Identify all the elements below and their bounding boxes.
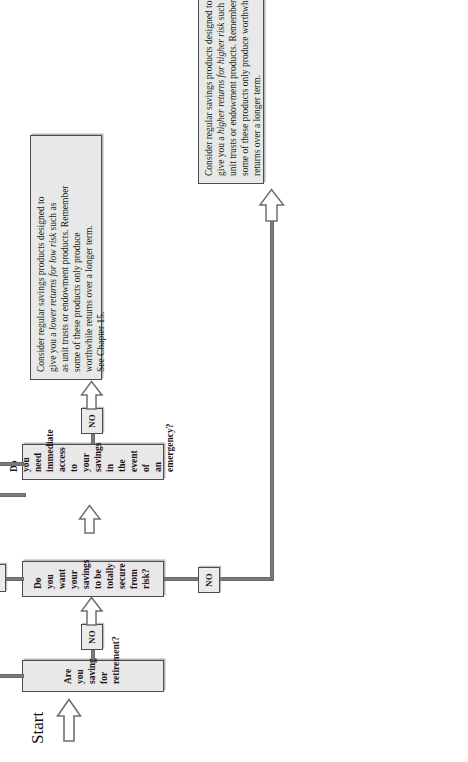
edge-label-q3-no-text: NO: [87, 414, 97, 428]
o3-line-6: See Chapter 15.: [96, 312, 106, 372]
o4-line-2-emphasis: higher returns for higher risk: [216, 23, 226, 135]
o3-line-4: some of these products only produce: [72, 232, 82, 372]
start-label: Start: [28, 712, 48, 744]
o4-line-1: Consider regular savings products design…: [204, 1, 214, 176]
edge-q3-yes-line: [0, 462, 24, 466]
edge-q2-yes-line-down: [0, 493, 26, 497]
edge-q2-no-arrow-icon: [258, 188, 286, 222]
o4-line-2a: give you a: [216, 134, 226, 176]
edge-label-q2-yes: YES: [0, 564, 6, 592]
edge-label-q2-no-text: NO: [204, 573, 214, 587]
edge-q2-no-line-h: [270, 215, 274, 581]
o3-line-2a: give you a: [48, 330, 58, 372]
o4-line-4: some of these products only produce wort…: [240, 0, 250, 176]
decision-node-q2-label: Do you want your savings to be totally s…: [33, 569, 153, 589]
outcome-node-o3[interactable]: Consider regular savings products design…: [30, 135, 102, 380]
o3-line-2-emphasis: lower returns for low risk: [48, 233, 58, 330]
o4-line-5: returns over a longer term.: [252, 75, 262, 176]
outcome-node-o4[interactable]: Consider regular savings products design…: [198, 0, 264, 184]
o3-line-5: worthwhile returns over a longer term.: [84, 225, 94, 372]
o4-line-3: unit trusts or endowment products. Remem…: [228, 0, 238, 176]
decision-node-q1[interactable]: Are you saving for retirement?: [22, 660, 164, 692]
edge-q2-to-q3-arrow-icon: [78, 504, 102, 534]
o3-line-3: as unit trusts or endowment products. Re…: [60, 185, 70, 372]
o3-line-1: Consider regular savings products design…: [36, 197, 46, 372]
flowchart-canvas: Start Are you saving for retirement? YES…: [0, 0, 468, 762]
edge-label-q3-no: NO: [81, 408, 103, 434]
edge-label-q2-yes-text: YES: [0, 569, 1, 587]
edge-q3-no-arrow-icon: [80, 380, 104, 410]
edge-label-q2-no: NO: [198, 567, 220, 593]
o4-line-2b: such as: [216, 0, 226, 23]
decision-node-q3[interactable]: Do you need immediate access to your sav…: [22, 444, 164, 480]
outcome-node-o3-label: Consider regular savings products design…: [36, 143, 108, 372]
decision-node-q3-label: Do you need immediate access to your sav…: [9, 452, 177, 472]
outcome-node-o4-label: Consider regular savings products design…: [204, 0, 264, 176]
start-arrow-icon: [56, 698, 82, 742]
decision-node-q1-label: Are you saving for retirement?: [63, 668, 123, 684]
flowchart-figure: Start Are you saving for retirement? YES…: [0, 0, 468, 762]
o3-line-2b: such as: [48, 203, 58, 233]
decision-node-q2[interactable]: Do you want your savings to be totally s…: [22, 561, 164, 597]
edge-label-q1-no-text: NO: [87, 630, 97, 644]
edge-q1-no-arrow-icon: [80, 596, 104, 626]
edge-label-q1-no: NO: [81, 624, 103, 650]
edge-q1-yes-line: [0, 674, 24, 678]
